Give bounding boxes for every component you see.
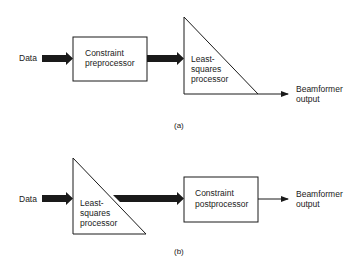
thick-arrow-data-b — [42, 192, 73, 205]
caption-b: (b) — [174, 247, 184, 256]
diagram-b: Data Least- squares processor Constraint… — [19, 158, 343, 256]
preprocessor-label-1: Constraint — [85, 48, 124, 58]
diagram-a: Data Constraint preprocessor Least- squa… — [19, 17, 343, 130]
postprocessor-label-2: postprocessor — [195, 199, 249, 209]
beamformer-diagram: Data Constraint preprocessor Least- squa… — [0, 0, 362, 270]
preprocessor-label-2: preprocessor — [85, 58, 135, 68]
output-label-1-b: Beamformer — [296, 189, 343, 199]
lsq-label-1-a: Least- — [191, 54, 215, 64]
lsq-label-1-b: Least- — [80, 198, 104, 208]
output-label-2-a: output — [296, 94, 320, 104]
data-input-label-b: Data — [19, 194, 37, 204]
lsq-label-3-b: processor — [80, 218, 117, 228]
thick-arrow-mid-a — [147, 52, 184, 65]
data-input-label-a: Data — [19, 53, 37, 63]
output-label-1-a: Beamformer — [296, 84, 343, 94]
postprocessor-label-1: Constraint — [195, 188, 234, 198]
thick-arrow-mid-b — [113, 192, 184, 205]
lsq-label-3-a: processor — [191, 74, 228, 84]
lsq-label-2-b: squares — [80, 208, 110, 218]
output-label-2-b: output — [296, 199, 320, 209]
lsq-label-2-a: squares — [191, 64, 221, 74]
caption-a: (a) — [174, 121, 184, 130]
thick-arrow-data-a — [42, 52, 73, 65]
